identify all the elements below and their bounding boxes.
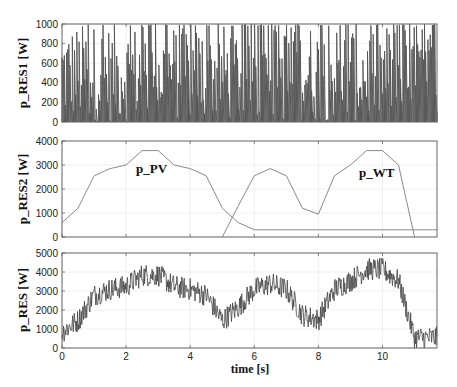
y-tick-label: 400 — [41, 77, 58, 88]
y-axis-label-p-res2: p_RES2 [W] — [15, 154, 30, 224]
y-tick-label: 5000 — [36, 248, 59, 259]
panel-p-res: 0100020003000400050000246810 — [36, 248, 437, 363]
y-tick-label: 3000 — [36, 286, 59, 297]
chart-canvas: 02004006008001000 01000200030004000 0100… — [0, 0, 457, 387]
x-axis-label-time: time [s] — [231, 362, 269, 376]
y-tick-label: 0 — [52, 117, 58, 128]
x-tick-label: 8 — [316, 351, 322, 362]
y-tick-label: 4000 — [36, 267, 59, 278]
y-tick-label: 200 — [41, 97, 58, 108]
panel-p-res2: 01000200030004000 — [36, 136, 437, 243]
x-tick-label: 4 — [187, 351, 193, 362]
y-axis-label-p-res: p_RES [W] — [15, 268, 30, 332]
series-p-pv — [62, 151, 437, 230]
y-tick-label: 800 — [41, 38, 58, 49]
y-tick-label: 600 — [41, 58, 58, 69]
y-tick-label: 0 — [52, 343, 58, 354]
y-tick-label: 1000 — [36, 19, 59, 30]
y-tick-label: 2000 — [36, 305, 59, 316]
x-tick-label: 6 — [252, 351, 258, 362]
y-tick-label: 4000 — [36, 136, 59, 147]
y-tick-label: 2000 — [36, 184, 59, 195]
figure: 02004006008001000 01000200030004000 0100… — [0, 0, 457, 387]
y-tick-label: 0 — [52, 232, 58, 243]
y-tick-label: 1000 — [36, 208, 59, 219]
y-tick-label: 1000 — [36, 324, 59, 335]
x-tick-label: 10 — [377, 351, 389, 362]
y-tick-label: 3000 — [36, 160, 59, 171]
annotation-p-wt: p_WT — [359, 165, 395, 180]
annotation-p-pv: p_PV — [136, 161, 168, 176]
x-tick-label: 0 — [59, 351, 65, 362]
x-tick-label: 2 — [123, 351, 129, 362]
panel-p-res1: 02004006008001000 — [36, 19, 437, 128]
series-p-res — [62, 258, 437, 348]
series-p-res1 — [62, 24, 437, 122]
y-axis-label-p-res1: p_RES1 [W] — [15, 38, 30, 108]
